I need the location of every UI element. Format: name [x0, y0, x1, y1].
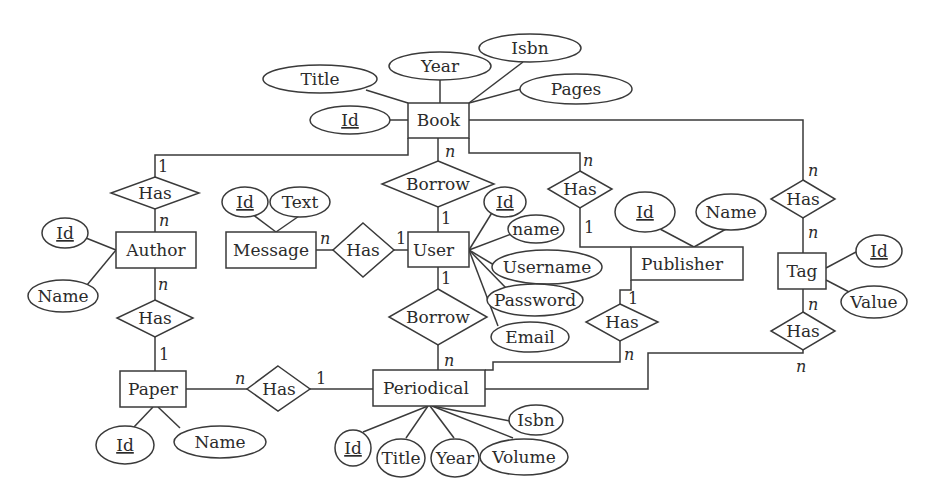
entity-periodical: Periodical	[373, 370, 485, 406]
svg-text:Name: Name	[194, 432, 245, 452]
relationship-message-user-has: Has	[333, 223, 394, 277]
svg-text:Id: Id	[341, 110, 359, 130]
attribute-book-year: Year	[389, 52, 491, 80]
attribute-book-pages: Pages	[520, 74, 632, 104]
svg-text:Year: Year	[435, 448, 475, 468]
entity-book: Book	[408, 103, 469, 138]
entity-user: User	[408, 232, 469, 267]
attribute-user-password: Password	[487, 284, 583, 316]
edge-tag-id	[826, 252, 856, 268]
edge-book-pages	[469, 89, 521, 103]
relationship-label: Has	[262, 379, 296, 399]
relationship-user-periodical-borrow: Borrow	[389, 289, 487, 345]
attribute-paper-id-key: Id	[96, 426, 154, 464]
edge-author-id	[86, 238, 116, 250]
entity-label: Book	[417, 110, 461, 130]
cardinality-label: n	[158, 275, 168, 294]
cardinality-label: 1	[158, 157, 168, 176]
cardinality-label: 1	[396, 229, 406, 248]
attribute-user-id-key: Id	[484, 187, 526, 217]
svg-text:Email: Email	[505, 327, 555, 347]
relationship-label: Has	[786, 189, 820, 209]
attribute-book-id-key: Id	[310, 106, 390, 134]
er-diagram-svg: Book User Author Message Publisher Tag P…	[0, 0, 934, 499]
entity-author: Author	[116, 232, 196, 268]
svg-text:Id: Id	[56, 223, 74, 243]
attribute-author-name: Name	[28, 280, 98, 312]
entity-label: Author	[125, 240, 186, 260]
cardinality-label: 1	[159, 345, 169, 364]
entity-message: Message	[226, 232, 316, 268]
edge-book-has-publisher	[469, 138, 580, 171]
svg-text:Id: Id	[236, 192, 254, 212]
relationship-book-user-borrow: Borrow	[382, 161, 494, 207]
cardinality-label: n	[624, 345, 634, 364]
attribute-periodical-isbn: Isbn	[509, 405, 563, 435]
cardinality-label: n	[235, 369, 245, 388]
relationship-paper-periodical-has: Has	[247, 366, 310, 411]
entity-label: Paper	[128, 379, 179, 399]
entity-label: Tag	[786, 261, 817, 281]
svg-text:Isbn: Isbn	[517, 410, 554, 430]
cardinality-label: n	[583, 151, 593, 170]
svg-text:Name: Name	[37, 286, 88, 306]
relationship-label: Has	[605, 312, 639, 332]
attribute-user-username: Username	[492, 250, 602, 284]
edge-user-id	[469, 211, 493, 250]
cardinality-label: n	[808, 161, 818, 180]
attribute-periodical-volume: Volume	[480, 439, 568, 475]
relationship-label: Has	[563, 179, 597, 199]
er-diagram: Book User Author Message Publisher Tag P…	[0, 0, 934, 499]
svg-text:Id: Id	[116, 435, 134, 455]
attribute-periodical-id-key: Id	[335, 430, 371, 466]
svg-text:Volume: Volume	[491, 447, 556, 467]
relationship-publisher-periodical-has: Has	[586, 304, 658, 341]
attribute-book-title: Title	[263, 65, 377, 93]
edge-periodical-volume	[432, 406, 513, 438]
entity-paper: Paper	[120, 371, 186, 407]
svg-text:Id: Id	[636, 202, 654, 222]
cardinality-label: n	[445, 142, 455, 161]
cardinality-label: 1	[441, 209, 451, 228]
svg-text:name: name	[512, 219, 559, 239]
cardinality-label: n	[159, 211, 169, 230]
svg-text:Id: Id	[344, 438, 362, 458]
svg-text:Password: Password	[494, 290, 576, 310]
cardinality-label: 1	[584, 218, 594, 237]
edge-user-name	[469, 233, 514, 250]
entity-label: Message	[233, 240, 309, 260]
svg-text:Value: Value	[849, 292, 897, 312]
edge-tag-value	[826, 280, 851, 293]
svg-text:Text: Text	[282, 192, 319, 212]
relationship-label: Borrow	[406, 174, 470, 194]
edge-book-has-author	[155, 138, 408, 177]
relationship-label: Has	[346, 240, 380, 260]
attribute-user-name: name	[508, 215, 564, 243]
attribute-book-isbn: Isbn	[479, 34, 581, 62]
svg-text:Id: Id	[870, 241, 888, 261]
attribute-periodical-title: Title	[377, 439, 425, 477]
relationship-label: Borrow	[406, 307, 470, 327]
svg-text:Pages: Pages	[551, 79, 601, 99]
attribute-publisher-id-key: Id	[615, 192, 675, 232]
relationship-label: Has	[138, 183, 172, 203]
entity-publisher: Publisher	[631, 247, 743, 280]
cardinality-label: n	[808, 295, 818, 314]
svg-text:Username: Username	[503, 257, 592, 277]
cardinality-label: n	[796, 357, 806, 376]
entity-label: User	[413, 240, 455, 260]
svg-text:Name: Name	[705, 202, 756, 222]
edge-paper-id	[134, 407, 153, 427]
edge-message-id	[252, 214, 276, 232]
edge-publisher-id	[660, 229, 694, 247]
cardinality-label: n	[444, 351, 454, 370]
attribute-tag-value: Value	[841, 286, 907, 318]
entity-label: Publisher	[641, 254, 724, 274]
edge-has-periodical-tag	[485, 350, 803, 389]
relationship-label: Has	[138, 308, 172, 328]
attribute-publisher-name: Name	[696, 194, 766, 230]
relationship-author-paper-has: Has	[117, 300, 193, 337]
edge-author-name	[87, 250, 116, 285]
attribute-message-id-key: Id	[222, 187, 268, 217]
cardinality-label: 1	[316, 369, 326, 388]
